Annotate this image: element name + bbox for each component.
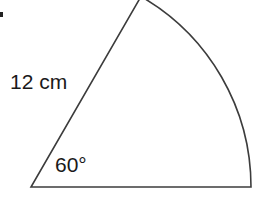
radius-length-label: 12 cm — [10, 71, 67, 92]
sector-angle-label: 60° — [55, 154, 87, 175]
figure-canvas: 12 cm 60° — [0, 0, 261, 202]
sector-diagram — [0, 0, 261, 202]
